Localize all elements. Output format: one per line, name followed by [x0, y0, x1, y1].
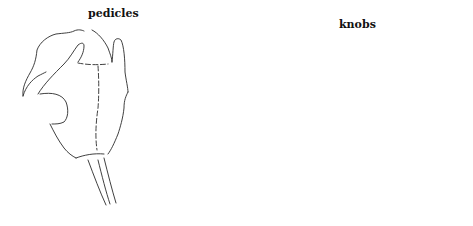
pedicles-label: pedicles	[88, 8, 139, 19]
specimen-diagram	[0, 0, 473, 226]
left-specimen	[23, 30, 128, 205]
knobs-label: knobs	[339, 19, 376, 30]
